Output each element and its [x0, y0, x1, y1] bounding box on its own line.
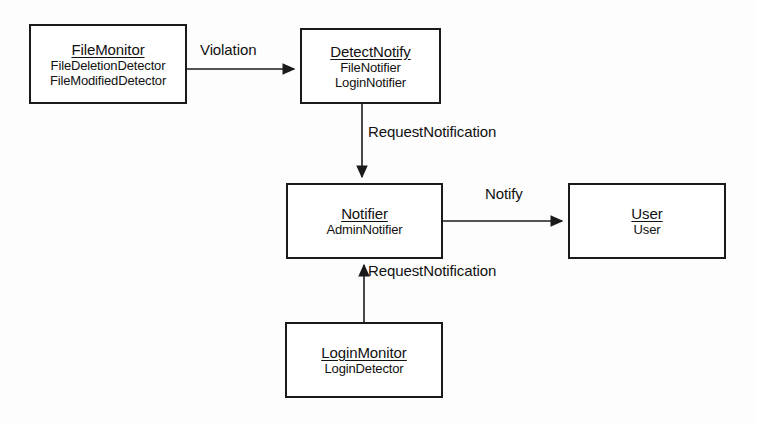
node-detect-notify-member-1: LoginNotifier — [335, 75, 406, 90]
node-login-monitor[interactable]: LoginMonitor LoginDetector — [285, 322, 443, 398]
node-detect-notify-title: DetectNotify — [330, 43, 411, 60]
node-login-monitor-member-0: LoginDetector — [325, 361, 404, 376]
node-notifier-members: AdminNotifier — [326, 222, 402, 237]
node-notifier[interactable]: Notifier AdminNotifier — [286, 183, 443, 259]
edge-label-request-notification-top: RequestNotification — [368, 123, 496, 140]
node-user-title: User — [631, 205, 662, 222]
node-file-monitor-members: FileDeletionDetector FileModifiedDetecto… — [50, 58, 166, 88]
node-file-monitor-title: FileMonitor — [71, 41, 144, 58]
edge-label-notify: Notify — [485, 185, 523, 202]
node-file-monitor[interactable]: FileMonitor FileDeletionDetector FileMod… — [29, 24, 187, 104]
node-detect-notify[interactable]: DetectNotify FileNotifier LoginNotifier — [300, 28, 441, 104]
node-file-monitor-member-0: FileDeletionDetector — [51, 58, 166, 73]
node-detect-notify-member-0: FileNotifier — [340, 60, 400, 75]
node-user[interactable]: User User — [568, 183, 726, 259]
node-login-monitor-title: LoginMonitor — [321, 344, 407, 361]
node-user-members: User — [634, 222, 661, 237]
node-login-monitor-members: LoginDetector — [325, 361, 404, 376]
diagram-canvas: FileMonitor FileDeletionDetector FileMod… — [0, 0, 757, 423]
node-notifier-title: Notifier — [341, 205, 388, 222]
node-file-monitor-member-1: FileModifiedDetector — [50, 73, 166, 88]
edge-label-request-notification-bottom: RequestNotification — [368, 262, 496, 279]
node-user-member-0: User — [634, 222, 661, 237]
node-detect-notify-members: FileNotifier LoginNotifier — [335, 60, 406, 90]
node-notifier-member-0: AdminNotifier — [326, 222, 402, 237]
edge-label-violation: Violation — [200, 41, 256, 58]
